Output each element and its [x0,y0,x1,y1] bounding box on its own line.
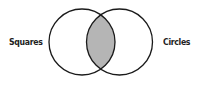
set-label-squares: Squares [9,36,42,47]
set-label-circles: Circles [163,36,190,47]
